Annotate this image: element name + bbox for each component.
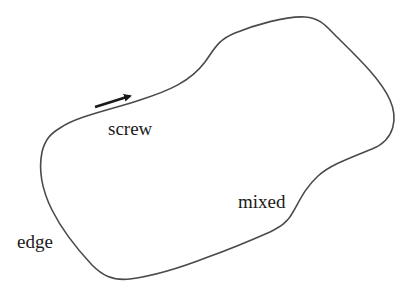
label-edge: edge <box>17 232 53 251</box>
label-mixed: mixed <box>238 192 286 211</box>
dislocation-loop-diagram: screw mixed edge <box>0 0 416 297</box>
dislocation-loop-line <box>40 17 394 279</box>
label-screw: screw <box>108 119 152 138</box>
diagram-graphic <box>0 0 416 297</box>
